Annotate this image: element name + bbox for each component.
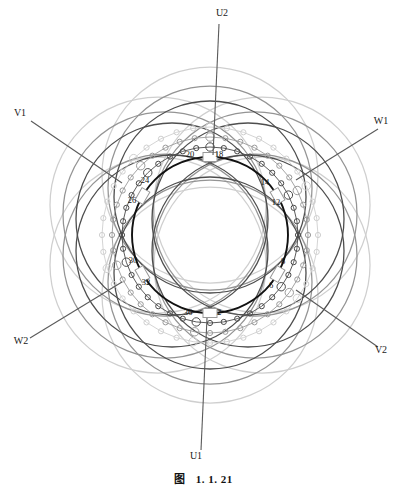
end-loop-v-2 xyxy=(153,112,357,316)
slot-number-32: 32 xyxy=(142,277,151,287)
terminal-label-W1: W1 xyxy=(374,115,388,126)
slot-number-30: 30 xyxy=(129,255,138,265)
end-loop-v-6 xyxy=(63,112,267,316)
coil-link xyxy=(288,262,293,275)
slot-number-14: 14 xyxy=(261,177,270,187)
terminal-labels: U2W1V2U1W2V1 xyxy=(14,7,388,461)
slot-number-2: 2 xyxy=(217,307,221,317)
caption-number: 1. 1. 21 xyxy=(196,473,233,485)
slot-number-8: 8 xyxy=(281,256,285,266)
figure-caption: 图1. 1. 21 xyxy=(0,470,407,486)
slot-number-36: 36 xyxy=(184,307,193,317)
slot-number-18: 18 xyxy=(215,149,224,159)
coil-link xyxy=(288,195,293,208)
coil-link xyxy=(117,265,123,279)
slot-number-12: 12 xyxy=(272,197,281,207)
lead-line-V1 xyxy=(31,121,122,183)
end-loop-v-5 xyxy=(63,154,267,358)
slot-number-6: 6 xyxy=(269,280,273,290)
coil-link xyxy=(132,183,139,195)
coil-link xyxy=(139,287,148,298)
coil-link xyxy=(272,287,281,298)
winding-diagram: 201814128636230322426 U2W1V2U1W2V1 xyxy=(0,0,407,503)
slot-number-26: 26 xyxy=(128,195,137,205)
coil-link xyxy=(262,297,273,306)
terminal-label-V1: V1 xyxy=(14,107,26,118)
terminal-label-U1: U1 xyxy=(190,450,202,461)
coil-link xyxy=(272,173,281,184)
coil-link xyxy=(148,164,159,173)
lead-line-W1 xyxy=(296,129,378,180)
end-loop-v-4 xyxy=(108,180,312,384)
coil-link xyxy=(148,297,159,306)
phase-w-end-loops xyxy=(50,67,370,403)
terminal-label-V2: V2 xyxy=(375,344,387,355)
slot-marker-3 xyxy=(203,309,217,318)
slot-number-20: 20 xyxy=(186,149,195,159)
coil-link xyxy=(262,164,273,173)
terminal-label-W2: W2 xyxy=(14,335,28,346)
caption-symbol: 图 xyxy=(174,473,186,485)
terminal-label-U2: U2 xyxy=(216,7,228,18)
coil-link xyxy=(131,166,141,178)
coil-link xyxy=(132,275,139,287)
figure-container: 201814128636230322426 U2W1V2U1W2V1 图1. 1… xyxy=(0,0,407,503)
terminal-lead-lines xyxy=(30,24,378,450)
end-loop-v-3 xyxy=(153,154,357,358)
slot-number-24: 24 xyxy=(141,175,150,185)
